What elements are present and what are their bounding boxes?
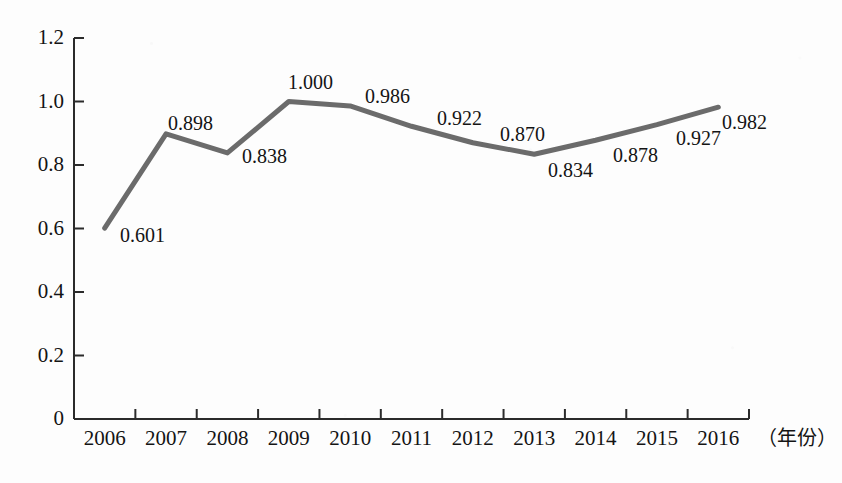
y-tick-label: 0.2 [38, 345, 64, 366]
y-tick-label: 0.4 [38, 281, 64, 302]
data-point-value-label: 1.000 [288, 72, 333, 92]
data-point-value-label: 0.834 [548, 160, 593, 180]
y-tick-label: 0 [54, 408, 65, 429]
data-point-value-label: 0.922 [437, 108, 482, 128]
data-point-value-label: 0.878 [613, 145, 658, 165]
data-point-value-label: 0.927 [676, 128, 721, 148]
y-tick-label: 1.2 [38, 27, 64, 48]
y-tick-label: 0.8 [38, 154, 64, 175]
data-point-value-label: 0.986 [365, 86, 410, 106]
chart-axes [74, 38, 749, 419]
x-axis-caption: （年份） [757, 428, 837, 448]
x-tick-label: 2016 [678, 428, 758, 449]
data-point-value-label: 0.838 [242, 146, 287, 166]
data-point-value-label: 0.898 [168, 113, 213, 133]
data-point-value-label: 0.870 [500, 124, 545, 144]
y-tick-label: 0.6 [38, 218, 64, 239]
y-tick-marks [74, 38, 84, 419]
x-tick-marks [135, 409, 687, 419]
y-tick-label: 1.0 [38, 91, 64, 112]
chart-figure: 00.20.40.60.81.01.2 20062007200820092010… [0, 0, 842, 483]
data-point-value-label: 0.982 [722, 112, 767, 132]
data-point-value-label: 0.601 [120, 225, 165, 245]
